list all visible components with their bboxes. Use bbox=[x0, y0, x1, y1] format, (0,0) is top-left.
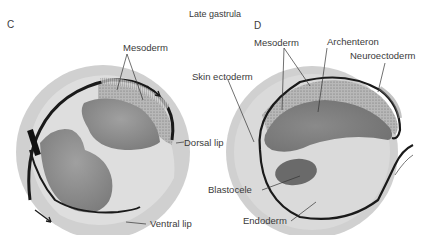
label-c-mesoderm: Mesoderm bbox=[123, 43, 168, 53]
label-d-skin-ectoderm: Skin ectoderm bbox=[192, 72, 253, 82]
label-c-dorsal-lip: Dorsal lip bbox=[184, 138, 224, 148]
label-d-neuroectoderm: Neuroectoderm bbox=[350, 51, 415, 61]
embryo-c bbox=[16, 65, 190, 235]
label-d-mesoderm: Mesoderm bbox=[254, 38, 299, 48]
label-c-ventral-lip: Ventral lip bbox=[150, 219, 192, 229]
label-d-archenteron: Archenteron bbox=[327, 37, 379, 47]
panel-label-c: C bbox=[7, 20, 14, 30]
panel-label-d: D bbox=[254, 21, 261, 31]
late-gastrula-diagram: Late gastrula C D Mesoderm Dorsal lip Ve… bbox=[0, 0, 422, 235]
embryo-d bbox=[226, 66, 413, 235]
label-d-endoderm: Endoderm bbox=[243, 216, 287, 226]
diagram-title: Late gastrula bbox=[189, 10, 241, 19]
label-d-blastocele: Blastocele bbox=[208, 185, 252, 195]
